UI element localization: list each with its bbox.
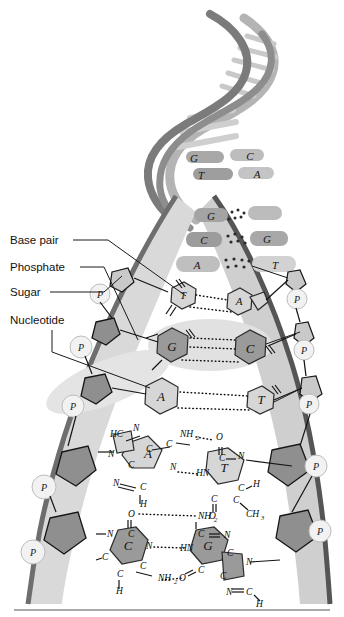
atom-N: N xyxy=(112,478,120,488)
group-NH2: NH xyxy=(179,429,194,439)
dna-diagram-canvas: G C T A xyxy=(0,0,344,617)
phosphate-circle: P xyxy=(70,336,92,358)
phosphate-circle: P xyxy=(309,520,331,542)
base-pair-AT-lower: A T xyxy=(145,378,281,414)
phosphate-letter: P xyxy=(77,342,84,353)
ladder-base-A2: A xyxy=(235,295,243,307)
atom-C: C xyxy=(117,569,124,579)
chem-base-G: G xyxy=(203,538,213,553)
chem-base-C: C xyxy=(124,538,133,553)
helix-base-A: A xyxy=(253,168,261,180)
atom-N: N xyxy=(107,449,115,459)
group-NH2: NH xyxy=(157,573,172,583)
ladder-base-G3: G xyxy=(167,339,177,354)
phosphate-letter: P xyxy=(316,526,323,537)
ladder-base-C3: C xyxy=(246,341,255,356)
atom-C: C xyxy=(146,444,153,454)
atom-C: C xyxy=(246,587,253,597)
atom-C: C xyxy=(198,529,205,539)
group-NH2: NH xyxy=(197,511,212,521)
helix-rung-pairs: G C T A xyxy=(186,149,274,181)
atom-H: H xyxy=(115,586,124,596)
phosphate-circle: P xyxy=(62,395,84,417)
phosphate-circle: P xyxy=(299,394,319,414)
atom-H: H xyxy=(252,479,261,489)
dna-ladder-body: G G C A T T A xyxy=(21,196,331,604)
phosphate-circle: P xyxy=(294,340,314,360)
atom-C: C xyxy=(128,529,135,539)
ladder-base-C1: C xyxy=(200,234,208,246)
atom-H: H xyxy=(139,499,148,509)
atom-O: O xyxy=(128,509,135,519)
ladder-base-A4: A xyxy=(156,389,165,404)
phosphate-circle: P xyxy=(32,475,56,499)
group-CH3-sub: 3 xyxy=(260,514,265,521)
helix-top: G C T A xyxy=(148,14,276,228)
ladder-base-T2: T xyxy=(180,289,187,301)
helix-base-T: T xyxy=(198,169,205,181)
label-phosphate: Phosphate xyxy=(10,261,65,273)
chem-pair-cytosine-guanine: C G O C N N C C C H NH 2 NH 2 C N HN C N… xyxy=(96,509,280,609)
phosphate-letter: P xyxy=(293,294,300,305)
atom-N: N xyxy=(245,557,253,567)
group-NH2-sub: 2 xyxy=(214,516,218,523)
atom-H: H xyxy=(255,599,264,609)
phosphate-letter: P xyxy=(69,401,76,412)
phosphate-circle: P xyxy=(287,289,307,309)
atom-C: C xyxy=(102,552,109,562)
phosphate-letter: P xyxy=(300,345,307,356)
atom-HN: HN xyxy=(179,543,194,553)
ladder-base-T4: T xyxy=(257,392,265,407)
phosphate-letter: P xyxy=(312,461,319,472)
phosphate-circle: P xyxy=(90,284,110,304)
atom-N: N xyxy=(145,541,153,551)
atom-HC: HC xyxy=(109,429,124,439)
atom-C: C xyxy=(219,453,226,463)
group-CH3: CH xyxy=(246,509,260,519)
chem-pair-adenine-thymine: A T HC N C C N C N C N H NH 2 O C N HN C… xyxy=(98,423,292,521)
atom-N: N xyxy=(106,529,114,539)
atom-C: C xyxy=(198,565,205,575)
dna-diagram-figure: G C T A xyxy=(0,0,344,617)
atom-C: C xyxy=(166,439,173,449)
atom-C: C xyxy=(211,494,218,504)
atom-N: N xyxy=(132,423,140,433)
label-base-pair: Base pair xyxy=(10,234,59,246)
atom-N: N xyxy=(169,462,177,472)
phosphate-circle: P xyxy=(21,540,45,564)
atom-N: N xyxy=(223,530,231,540)
phosphate-circle: P xyxy=(305,455,327,477)
ladder-base-G1: G xyxy=(207,210,215,222)
atom-C: C xyxy=(140,482,147,492)
ladder-base-T1: T xyxy=(272,259,279,271)
atom-HN: HN xyxy=(195,468,210,478)
phosphate-letter: P xyxy=(29,547,36,558)
atom-C: C xyxy=(227,548,234,558)
atom-C: C xyxy=(140,561,147,571)
ladder-base-A1: A xyxy=(193,259,201,271)
phosphate-letter: P xyxy=(96,289,103,300)
atom-C: C xyxy=(238,483,245,493)
helix-ribbon-back xyxy=(170,18,274,220)
helix-base-C: C xyxy=(246,150,254,162)
atom-C: C xyxy=(233,495,240,505)
label-sugar: Sugar xyxy=(10,286,41,298)
label-nucleotide: Nucleotide xyxy=(10,314,64,326)
atom-N: N xyxy=(225,587,233,597)
atom-O: O xyxy=(216,432,223,442)
atom-O: O xyxy=(179,573,186,583)
helix-base-G: G xyxy=(190,152,198,164)
atom-C: C xyxy=(128,460,135,470)
phosphate-letter: P xyxy=(40,482,47,493)
atom-C: C xyxy=(220,571,227,581)
ladder-base-G1r: G xyxy=(263,233,271,245)
phosphate-letter: P xyxy=(305,399,312,410)
atom-N: N xyxy=(237,451,245,461)
